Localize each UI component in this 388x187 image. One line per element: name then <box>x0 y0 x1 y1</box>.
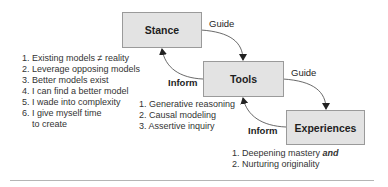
guide-arrow-stance-to-tools <box>201 30 243 60</box>
stance-box: Stance <box>122 12 202 48</box>
list-item: 2. Nurturing originality <box>232 159 339 170</box>
stance-list: 1. Existing models ≠ reality 2. Leverage… <box>22 53 140 130</box>
guide-arrow-tools-to-experiences <box>283 79 326 109</box>
experiences-list: 1. Deepening mastery and 2. Nurturing or… <box>232 148 339 170</box>
tools-box: Tools <box>203 61 284 97</box>
list-item: 4. I can find a better model <box>22 86 140 97</box>
guide-label-tools-experiences: Guide <box>291 67 316 78</box>
list-item: 6. I give myself time <box>22 108 140 119</box>
list-item: 2. Causal modeling <box>139 110 235 121</box>
emphasis-and: and <box>323 148 339 158</box>
list-item: 3. Assertive inquiry <box>139 121 235 132</box>
inform-label-tools-stance: Inform <box>168 77 198 88</box>
list-item: 1. Existing models ≠ reality <box>22 53 140 64</box>
guide-label-stance-tools: Guide <box>209 18 234 29</box>
list-item-continuation: to create <box>22 119 140 130</box>
inform-arrow-experiences-to-tools <box>243 98 286 127</box>
tools-label: Tools <box>230 73 257 85</box>
list-item: 3. Better models exist <box>22 75 140 86</box>
divider-rule <box>10 180 374 181</box>
list-item: 1. Deepening mastery and <box>232 148 339 159</box>
list-item: 2. Leverage opposing models <box>22 64 140 75</box>
tools-list: 1. Generative reasoning 2. Causal modeli… <box>139 99 235 132</box>
inform-arrow-tools-to-stance <box>162 49 203 79</box>
stance-label: Stance <box>145 24 179 36</box>
inform-label-experiences-tools: Inform <box>248 125 278 136</box>
list-item: 5. I wade into complexity <box>22 97 140 108</box>
list-item: 1. Generative reasoning <box>139 99 235 110</box>
experiences-box: Experiences <box>286 110 365 145</box>
experiences-label: Experiences <box>295 122 357 134</box>
